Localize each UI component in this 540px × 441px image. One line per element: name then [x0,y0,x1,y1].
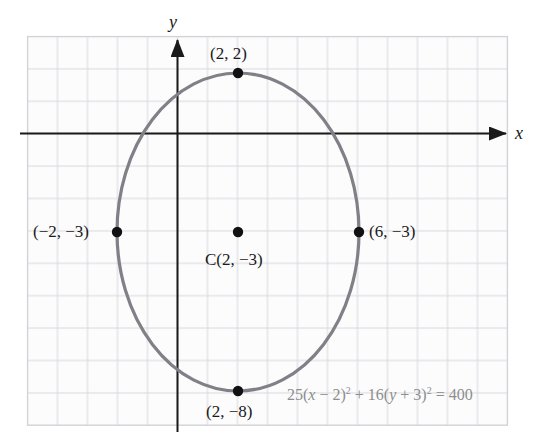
eq-a-rest: − 2) [315,386,345,403]
label-center-point: C(2, −3) [205,251,263,268]
label-right-point: (6, −3) [369,223,415,240]
eq-equals: = 400 [432,386,473,403]
point-right [354,227,364,237]
point-bottom [233,386,243,396]
x-axis-label: x [515,124,523,142]
ellipse-equation: 25(x − 2)2 + 16(y + 3)2 = 400 [287,386,473,403]
eq-a-coeff: 25( [287,386,308,403]
eq-b-rest: + 3) [396,386,426,403]
grid [28,37,508,426]
label-bottom-point: (2, −8) [206,403,252,420]
point-center [233,227,243,237]
eq-plus: + [351,386,368,403]
point-top [233,68,243,78]
point-left [112,227,122,237]
label-top-point: (2, 2) [210,45,247,62]
label-left-point: (−2, −3) [33,223,89,240]
y-axis-label: y [169,13,177,31]
ellipse-graph-figure: y x (2, 2) (−2, −3) (6, −3) (2, −8) C(2,… [0,0,540,441]
coordinate-plane-svg [0,0,540,441]
eq-b-coeff: 16( [368,386,389,403]
